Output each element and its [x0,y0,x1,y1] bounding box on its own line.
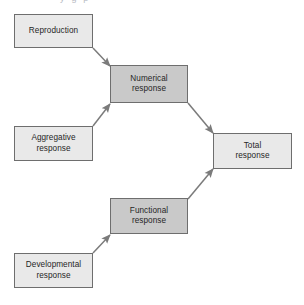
node-aggregative-response[interactable]: Aggregative response [14,126,93,161]
arrow-aggregative-to-numerical [93,104,110,126]
node-label: Aggregative response [31,133,75,154]
arrow-reproduction-to-numerical [93,48,110,66]
clipped-caption-fragment: y g p [0,0,304,8]
node-label: Functional response [130,206,168,227]
diagram-canvas: y g p ReproductionAggregative responseDe… [0,0,304,305]
node-label: Numerical response [130,74,167,95]
node-functional-response[interactable]: Functional response [110,198,188,234]
node-label: Total response [235,141,269,162]
node-total-response[interactable]: Total response [213,133,292,169]
arrow-developmental-to-functional [93,235,110,253]
node-label: Developmental response [26,260,81,281]
node-numerical-response[interactable]: Numerical response [110,65,188,103]
node-label: Reproduction [29,26,78,37]
node-developmental-response[interactable]: Developmental response [14,253,93,288]
node-reproduction[interactable]: Reproduction [14,14,93,48]
arrow-functional-to-total [188,169,213,199]
arrow-numerical-to-total [188,103,213,133]
